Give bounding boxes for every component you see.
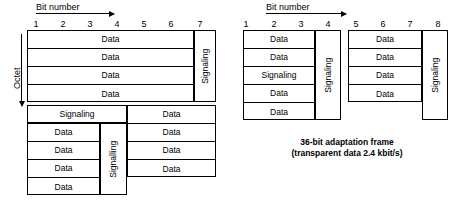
left-lower-middle-signaling-label: Signalling xyxy=(109,141,118,178)
left-bit-number-arrow xyxy=(36,13,114,14)
left-lower-left-row-1-label: Data xyxy=(55,128,73,137)
right-left-group-block: Data Data Signaling Data Data xyxy=(243,30,315,120)
right-right-group-signaling-column: Signaling xyxy=(422,30,448,120)
right-right-group-signaling-label: Signaling xyxy=(431,58,440,93)
left-upper-signaling-label: Signaling xyxy=(201,49,210,84)
right-left-group-row-3: Signaling xyxy=(244,67,314,85)
right-right-group-row-2: Data xyxy=(349,49,421,67)
right-left-group-row-1-label: Data xyxy=(270,35,288,44)
right-bit-number-label: Bit number xyxy=(266,2,346,13)
left-lower-left-row-1: Data xyxy=(28,124,99,142)
left-lower-right-data-block: Data Data Data Data xyxy=(127,105,216,177)
left-upper-row-1: Data xyxy=(28,31,193,49)
left-upper-row-1-label: Data xyxy=(102,35,120,44)
right-left-group-row-4-label: Data xyxy=(270,89,288,98)
left-bit-tick-3: 3 xyxy=(87,19,92,29)
left-bit-tick-2: 2 xyxy=(60,19,65,29)
left-upper-row-4: Data xyxy=(28,85,193,103)
right-left-group-signaling-label: Signaling xyxy=(324,58,333,93)
right-diagram-caption: 36-bit adaptation frame (transparent dat… xyxy=(283,137,411,158)
right-right-group-row-3-label: Data xyxy=(376,71,394,80)
right-bit-tick-7: 7 xyxy=(407,19,412,29)
right-diagram-caption-line1: 36-bit adaptation frame xyxy=(283,137,411,148)
right-right-group-row-2-label: Data xyxy=(376,53,394,62)
left-bit-tick-5: 5 xyxy=(141,19,146,29)
right-right-group-block: Data Data Data Data xyxy=(348,30,422,102)
left-upper-data-block: Data Data Data Data xyxy=(27,30,194,102)
left-bit-tick-1: 1 xyxy=(33,19,38,29)
right-left-group-signaling-column: Signaling xyxy=(315,30,341,120)
left-lower-left-row-2-label: Data xyxy=(55,146,73,155)
left-lower-left-row-2: Data xyxy=(28,142,99,160)
left-lower-right-row-1-label: Data xyxy=(163,110,181,119)
right-right-group-row-1-label: Data xyxy=(376,35,394,44)
right-bit-number-arrow xyxy=(266,13,346,14)
left-upper-row-2: Data xyxy=(28,49,193,67)
left-lower-signaling-row: Signaling xyxy=(27,105,127,123)
right-bit-tick-1: 1 xyxy=(243,19,248,29)
right-left-group-row-5: Data xyxy=(244,103,314,121)
left-octet-arrow xyxy=(21,34,22,106)
left-lower-right-row-1: Data xyxy=(128,106,215,124)
left-lower-right-row-2-label: Data xyxy=(163,128,181,137)
right-right-group-row-3: Data xyxy=(349,67,421,85)
right-left-group-row-2: Data xyxy=(244,49,314,67)
right-right-group-row-1: Data xyxy=(349,31,421,49)
left-lower-signaling-row-cell: Signaling xyxy=(28,106,126,122)
left-upper-signaling-column: Signaling xyxy=(194,30,216,102)
right-diagram-caption-line2: (transparent data 2.4 kbit/s) xyxy=(283,148,411,159)
left-lower-right-row-4: Data xyxy=(128,160,215,178)
left-lower-right-row-4-label: Data xyxy=(163,165,181,174)
right-left-group-row-4: Data xyxy=(244,85,314,103)
left-lower-left-row-4-label: Data xyxy=(55,183,73,192)
right-left-group-row-2-label: Data xyxy=(270,53,288,62)
left-upper-row-4-label: Data xyxy=(102,90,120,99)
left-bit-tick-4: 4 xyxy=(114,19,119,29)
left-upper-row-3: Data xyxy=(28,67,193,85)
left-lower-middle-signaling-column: Signalling xyxy=(100,123,127,195)
left-upper-row-3-label: Data xyxy=(102,71,120,80)
right-left-group-row-1: Data xyxy=(244,31,314,49)
left-bit-number-header: Bit number xyxy=(36,2,114,14)
left-upper-row-2-label: Data xyxy=(102,53,120,62)
right-bit-tick-3: 3 xyxy=(298,19,303,29)
left-lower-right-row-3-label: Data xyxy=(163,146,181,155)
left-bit-tick-7: 7 xyxy=(197,19,202,29)
right-bit-number-header: Bit number xyxy=(266,2,346,14)
left-lower-right-row-3: Data xyxy=(128,142,215,160)
right-left-group-row-3-label: Signaling xyxy=(262,71,297,80)
right-bit-tick-6: 6 xyxy=(380,19,385,29)
left-lower-left-row-4: Data xyxy=(28,178,99,196)
right-bit-tick-2: 2 xyxy=(271,19,276,29)
left-lower-signaling-row-label: Signaling xyxy=(60,110,95,119)
frame-structure-figure: Bit number Octet 1 2 3 4 5 6 7 Data Data… xyxy=(0,0,466,215)
right-right-group-row-4-label: Data xyxy=(376,90,394,99)
left-lower-right-row-2: Data xyxy=(128,124,215,142)
right-left-group-row-5-label: Data xyxy=(270,108,288,117)
left-bit-number-label: Bit number xyxy=(36,2,114,13)
right-bit-tick-5: 5 xyxy=(353,19,358,29)
right-bit-tick-8: 8 xyxy=(435,19,440,29)
left-lower-left-row-3: Data xyxy=(28,160,99,178)
right-bit-tick-4: 4 xyxy=(325,19,330,29)
left-lower-left-data-block: Data Data Data Data xyxy=(27,123,100,195)
right-right-group-row-4: Data xyxy=(349,85,421,103)
left-bit-tick-6: 6 xyxy=(168,19,173,29)
left-lower-left-row-3-label: Data xyxy=(55,164,73,173)
